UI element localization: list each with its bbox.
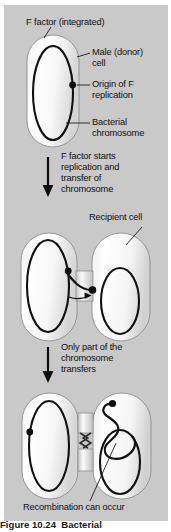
label-origin-line1: Origin of F: [92, 79, 134, 90]
recipient-cell-outline: [92, 233, 150, 341]
label-male-cell-line1: Male (donor): [92, 47, 143, 58]
conjugation-diagram: [4, 5, 168, 521]
step1-line3: transfer of: [61, 173, 101, 184]
step1-line2: replication and: [61, 162, 119, 173]
label-origin-line2: replication: [92, 90, 133, 101]
transfer-leading-end-dot: [89, 286, 97, 294]
step-arrow-2: [43, 347, 54, 383]
bridge-stub-upper: [78, 413, 93, 433]
step1-line4: chromosome: [61, 184, 113, 195]
step2-line1: Only part of the: [61, 342, 122, 353]
step1-line1: F factor starts: [61, 151, 116, 162]
label-chromosome-line2: chromosome: [92, 128, 144, 139]
step-arrow-1: [43, 157, 54, 197]
stage-donor-cell: [27, 27, 90, 147]
figure-panel: F factor (integrated) Male (donor) cell …: [4, 5, 168, 521]
label-recombination: Recombination can occur: [23, 502, 124, 513]
figure-caption: Figure 10.24 Bacterial: [0, 519, 171, 532]
label-chromosome-line1: Bacterial: [92, 117, 127, 128]
donor-cell-outline: [27, 35, 79, 147]
step2-line2: chromosome: [61, 353, 113, 364]
transferred-fragment-end-dot: [109, 400, 116, 407]
label-male-cell-line2: cell: [92, 58, 105, 69]
stage-conjugation: [21, 227, 150, 341]
step2-line3: transfers: [61, 364, 96, 375]
label-recipient-cell: Recipient cell: [89, 212, 142, 223]
bridge-stub-lower: [78, 449, 93, 471]
origin-of-f-replication-dot: [69, 82, 76, 89]
donor-origin-dot-3: [26, 429, 33, 436]
label-f-factor: F factor (integrated): [26, 17, 105, 28]
stage-recombination: [22, 393, 151, 501]
leader-male-cell: [77, 53, 90, 57]
